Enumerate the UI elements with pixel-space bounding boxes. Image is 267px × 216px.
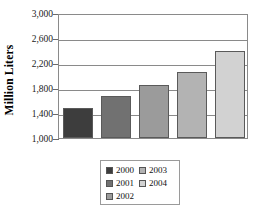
legend-item-2000[interactable]: 2000 bbox=[106, 164, 134, 176]
legend-swatch-icon bbox=[139, 180, 146, 187]
y-axis-tick-label: 3,000 bbox=[32, 9, 53, 20]
plot-area bbox=[58, 14, 248, 139]
bar-2001[interactable] bbox=[101, 96, 131, 139]
legend-label: 2004 bbox=[149, 178, 167, 188]
legend-swatch-icon bbox=[106, 180, 113, 187]
legend-column-2: 20032004 bbox=[139, 164, 167, 202]
legend-label: 2002 bbox=[116, 191, 134, 201]
y-axis-tick-label: 2,600 bbox=[32, 34, 53, 45]
legend-item-2003[interactable]: 2003 bbox=[139, 164, 167, 176]
bar-2002[interactable] bbox=[139, 85, 169, 138]
legend-label: 2001 bbox=[116, 178, 134, 188]
legend-label: 2000 bbox=[116, 165, 134, 175]
y-axis-title-text: Million Liters bbox=[3, 45, 15, 116]
legend-item-2001[interactable]: 2001 bbox=[106, 177, 134, 189]
y-axis-tick-label: 1,800 bbox=[32, 84, 53, 95]
legend: 20002001200220032004 bbox=[100, 160, 180, 205]
legend-column-1: 200020012002 bbox=[106, 164, 134, 202]
bars-layer bbox=[59, 15, 247, 138]
y-axis-tick-label: 1,400 bbox=[32, 109, 53, 120]
legend-swatch-icon bbox=[106, 193, 113, 200]
legend-item-2004[interactable]: 2004 bbox=[139, 177, 167, 189]
bar-chart-figure: Million Liters 3,0002,6002,2001,8001,400… bbox=[0, 0, 267, 216]
y-axis-tick-label: 1,000 bbox=[32, 134, 53, 145]
y-axis-tick-mark bbox=[53, 139, 59, 140]
legend-item-2002[interactable]: 2002 bbox=[106, 190, 134, 202]
y-axis-tick-label: 2,200 bbox=[32, 59, 53, 70]
bar-2003[interactable] bbox=[177, 72, 207, 138]
bar-2000[interactable] bbox=[63, 108, 93, 138]
y-axis-tick-labels: 3,0002,6002,2001,8001,4001,000 bbox=[18, 8, 56, 146]
bar-2004[interactable] bbox=[215, 51, 245, 139]
legend-swatch-icon bbox=[139, 167, 146, 174]
y-axis-title: Million Liters bbox=[0, 30, 18, 130]
legend-swatch-icon bbox=[106, 167, 113, 174]
legend-columns: 20002001200220032004 bbox=[106, 164, 175, 202]
legend-label: 2003 bbox=[149, 165, 167, 175]
